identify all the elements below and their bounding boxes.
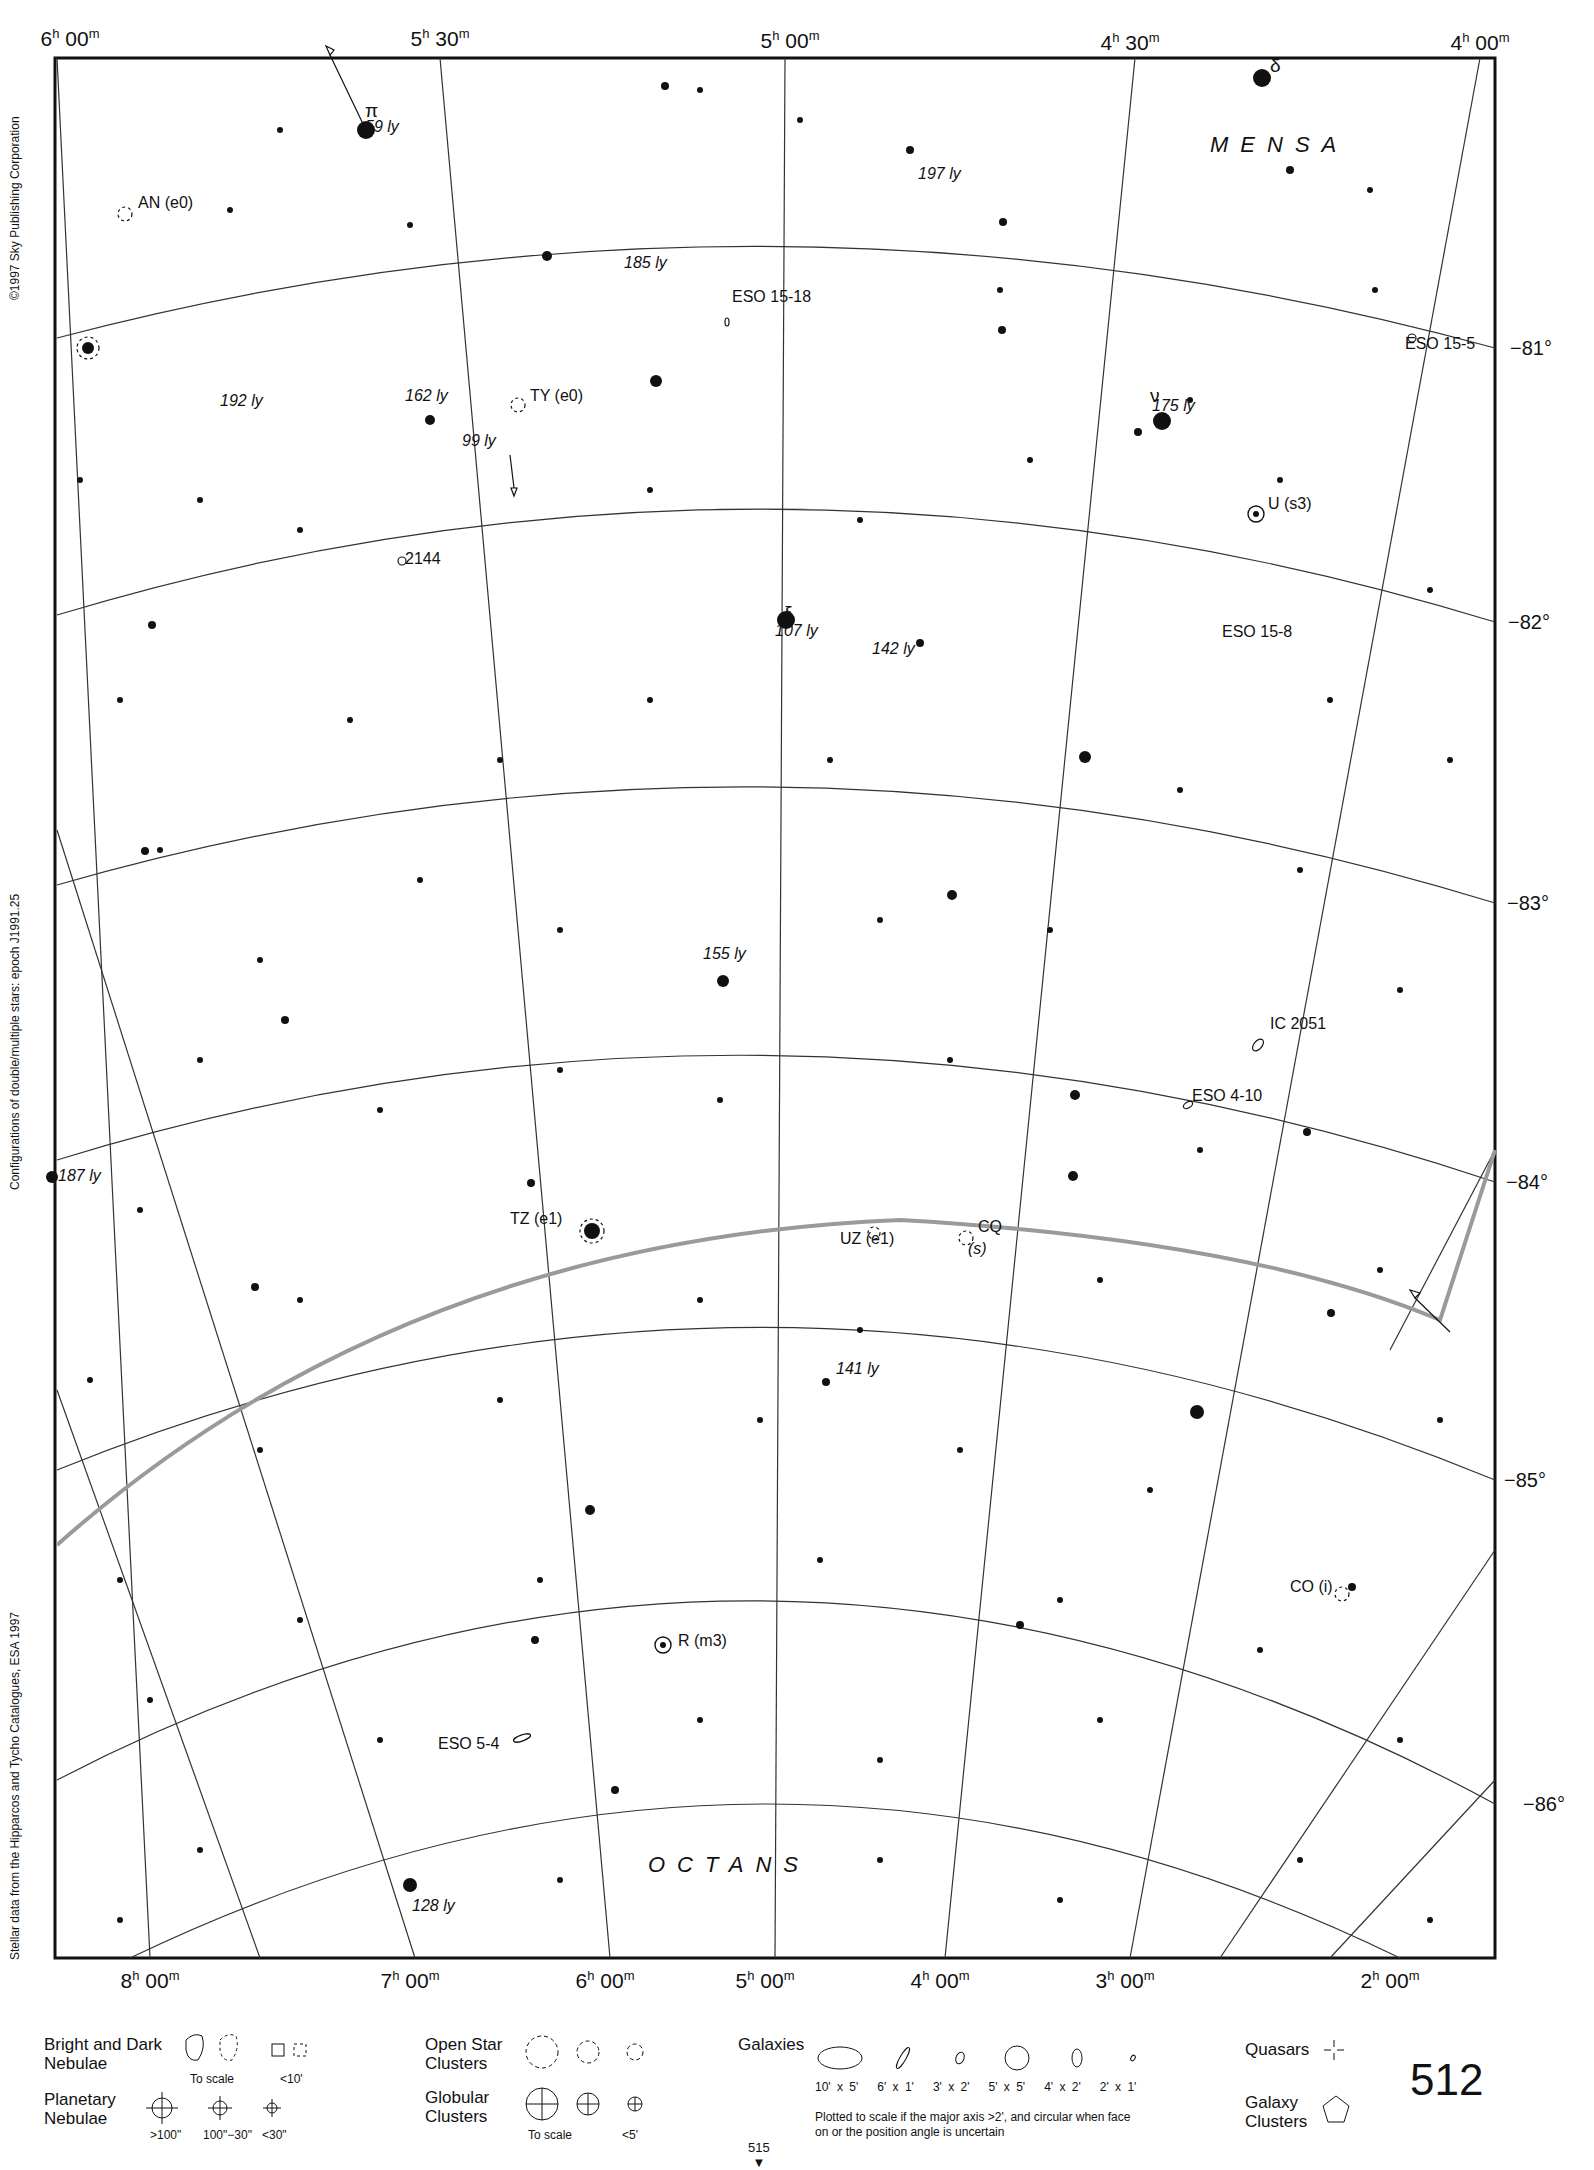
legend-galaxies-note: Plotted to scale if the major axis >2', … (815, 2110, 1145, 2140)
label-distance: 141 ly (836, 1360, 879, 1378)
label-distance: 128 ly (412, 1897, 455, 1915)
legend-nebulae-to-scale: To scale (190, 2072, 234, 2086)
label-galaxy: IC 2051 (1270, 1015, 1326, 1033)
legend-nebulae-small: <10' (280, 2072, 303, 2086)
chart-frame (55, 58, 1495, 1958)
source-note: Stellar data from the Hipparcos and Tych… (8, 1612, 22, 1960)
legend-galaxies-title: Galaxies (738, 2035, 804, 2054)
ra-label: 5h 00m (736, 1968, 795, 1993)
label-galaxy: ESO 5-4 (438, 1735, 499, 1753)
label-distance: 192 ly (220, 392, 263, 410)
dec-label: −81° (1510, 337, 1552, 360)
constellation-boundary (57, 1150, 1495, 1545)
star-chart (0, 0, 1594, 2170)
ra-label: 5h 30m (411, 26, 470, 51)
legend-globular-to-scale: To scale (528, 2128, 572, 2142)
ra-label: 6h 00m (41, 26, 100, 51)
legend-quasars-title: Quasars (1245, 2040, 1309, 2059)
label-distance: 99 ly (462, 432, 496, 450)
page-number: 512 (1410, 2055, 1483, 2105)
label-distance: 187 ly (58, 1167, 101, 1185)
ra-label: 6h 00m (576, 1968, 635, 1993)
constellation-name-mensa: MENSA (1210, 132, 1348, 158)
ra-label: 3h 00m (1096, 1968, 1155, 1993)
ra-grid-lines (57, 58, 1495, 1958)
ra-label: 5h 00m (761, 28, 820, 53)
ra-label: 2h 00m (1361, 1968, 1420, 1993)
ra-label: 4h 30m (1101, 30, 1160, 55)
ra-label: 4h 00m (1451, 30, 1510, 55)
legend-planetary-title: Planetary Nebulae (44, 2090, 124, 2128)
label-variable: (s) (968, 1240, 987, 1258)
planetary-nebula-symbols (140, 2088, 310, 2128)
configurations-note: Configurations of double/multiple stars:… (8, 894, 22, 1190)
legend-planetary-size: 100"−30" (203, 2128, 252, 2142)
label-distance: 175 ly (1152, 397, 1195, 415)
label-variable: TZ (e1) (510, 1210, 562, 1228)
legend-planetary-size: >100" (150, 2128, 181, 2142)
label-distance: 59 ly (365, 118, 399, 136)
legend-open-clusters-title: Open Star Clusters (425, 2035, 515, 2073)
next-page-link[interactable]: 515 ▼ (748, 2140, 770, 2170)
label-variable: CO (i) (1290, 1578, 1333, 1596)
label-greek: ξ (784, 602, 793, 624)
constellation-name-octans: OCTANS (648, 1852, 810, 1878)
ra-label: 4h 00m (911, 1968, 970, 1993)
label-variable: AN (e0) (138, 194, 193, 212)
label-galaxy: ESO 15-8 (1222, 623, 1292, 641)
dec-label: −84° (1506, 1171, 1548, 1194)
label-variable: U (s3) (1268, 495, 1312, 513)
legend-globular-small: <5' (622, 2128, 638, 2142)
nebula-symbols (180, 2030, 320, 2070)
label-variable: TY (e0) (530, 387, 583, 405)
legend-planetary-size: <30" (262, 2128, 287, 2142)
label-greek: δ (1270, 55, 1281, 77)
dec-label: −86° (1523, 1793, 1565, 1816)
legend-nebulae-title: Bright and Dark Nebulae (44, 2035, 184, 2073)
label-distance: 185 ly (624, 254, 667, 272)
down-arrow-icon: ▼ (748, 2155, 770, 2170)
globular-cluster-symbols (520, 2082, 660, 2126)
label-distance: 197 ly (918, 165, 961, 183)
dec-label: −85° (1504, 1469, 1546, 1492)
label-distance: 107 ly (775, 622, 818, 640)
legend-galaxy-sizes: 10' x 5' 6' x 1' 3' x 2' 5' x 5' 4' x 2'… (815, 2080, 1136, 2094)
galaxy-cluster-pentagon-icon (1320, 2093, 1352, 2125)
ra-label: 8h 00m (121, 1968, 180, 1993)
label-distance: 142 ly (872, 640, 915, 658)
copyright-note: ©1997 Sky Publishing Corporation (8, 116, 22, 300)
galaxy-markers (398, 318, 1416, 1744)
legend-globular-title: Globular Clusters (425, 2088, 515, 2126)
galaxy-symbols (815, 2040, 1155, 2076)
label-variable: R (m3) (678, 1632, 727, 1650)
label-distance: 162 ly (405, 387, 448, 405)
label-galaxy: 2144 (405, 550, 441, 568)
label-variable: UZ (e1) (840, 1230, 894, 1248)
label-galaxy: ESO 15-18 (732, 288, 811, 306)
legend-galaxy-clusters-title: Galaxy Clusters (1245, 2093, 1315, 2131)
open-cluster-symbols (520, 2030, 660, 2074)
dec-label: −83° (1507, 892, 1549, 915)
stars (46, 69, 1453, 1923)
planetary-nebula-markers (655, 506, 1264, 1653)
label-galaxy: ESO 4-10 (1192, 1087, 1262, 1105)
ra-label: 7h 00m (381, 1968, 440, 1993)
label-variable: CQ (978, 1218, 1002, 1236)
quasar-icon (1322, 2038, 1346, 2062)
label-galaxy: ESO 15-5 (1405, 335, 1475, 353)
next-page-number: 515 (748, 2140, 770, 2155)
dec-label: −82° (1508, 611, 1550, 634)
label-distance: 155 ly (703, 945, 746, 963)
